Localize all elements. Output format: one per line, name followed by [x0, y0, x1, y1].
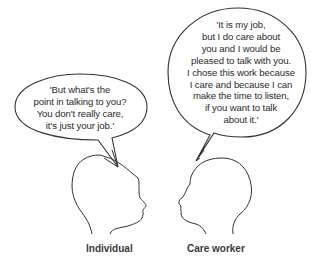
speech-line: point in talking to you?	[18, 96, 142, 108]
speech-line: I care and because I can	[178, 79, 304, 91]
care-worker-head-outline	[179, 158, 252, 234]
care-worker-label: Care worker	[187, 243, 245, 254]
speech-line: but I do care about	[178, 31, 304, 43]
speech-line: it's just your job.'	[18, 120, 142, 132]
speech-line: 'But what's the	[18, 84, 142, 96]
individual-label: Individual	[86, 243, 133, 254]
care-worker-speech-text: 'It is my job, but I do care about you a…	[178, 19, 304, 126]
speech-line: You don't really care,	[18, 108, 142, 120]
speech-line: 'It is my job,	[178, 19, 304, 31]
speech-line: I chose this work because	[178, 67, 304, 79]
diagram-canvas: 'But what's the point in talking to you?…	[0, 0, 311, 266]
speech-line: make the time to listen,	[178, 90, 304, 102]
speech-line: if you want to talk	[178, 102, 304, 114]
care-worker-tail-to-head	[196, 150, 204, 161]
individual-head-outline	[72, 155, 146, 234]
speech-line: about it.'	[178, 114, 304, 126]
speech-line: you and I would be	[178, 43, 304, 55]
individual-speech-text: 'But what's the point in talking to you?…	[18, 84, 142, 132]
speech-line: pleased to talk with you.	[178, 55, 304, 67]
